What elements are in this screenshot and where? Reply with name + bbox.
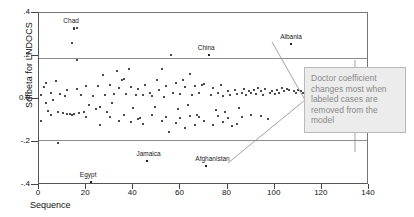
data-point-labeled bbox=[90, 181, 92, 183]
data-point bbox=[229, 94, 231, 96]
data-point-labeled bbox=[205, 165, 207, 167]
y-tick-label: 0.0 bbox=[4, 93, 30, 102]
data-point bbox=[161, 68, 163, 70]
data-point bbox=[43, 86, 45, 88]
x-tick-label: 0 bbox=[26, 188, 50, 197]
x-tick-label: 120 bbox=[309, 188, 333, 197]
point-label-afghanistan: Afghanistan bbox=[195, 155, 229, 162]
data-point bbox=[250, 114, 252, 116]
data-point bbox=[241, 92, 243, 94]
data-point bbox=[66, 89, 68, 91]
data-point bbox=[222, 121, 224, 123]
data-point bbox=[52, 99, 54, 101]
data-point bbox=[99, 106, 101, 108]
data-point bbox=[88, 104, 90, 106]
data-point bbox=[57, 142, 59, 144]
data-point bbox=[156, 79, 158, 81]
data-point bbox=[57, 111, 59, 113]
data-point bbox=[179, 93, 181, 95]
point-label-chad: Chad bbox=[63, 17, 79, 24]
data-point bbox=[109, 116, 111, 118]
data-point bbox=[236, 93, 238, 95]
data-point bbox=[47, 110, 49, 112]
data-point bbox=[161, 120, 163, 122]
data-point bbox=[257, 87, 259, 89]
data-point bbox=[76, 27, 78, 29]
data-point bbox=[203, 120, 205, 122]
data-point bbox=[144, 84, 146, 86]
y-tick bbox=[31, 12, 38, 13]
data-point bbox=[104, 94, 106, 96]
data-point bbox=[109, 84, 111, 86]
x-tick-label: 100 bbox=[262, 188, 286, 197]
data-point bbox=[45, 82, 47, 84]
y-tick bbox=[31, 184, 38, 185]
data-point bbox=[135, 94, 137, 96]
y-tick bbox=[31, 55, 38, 56]
data-point bbox=[271, 90, 273, 92]
data-point bbox=[128, 68, 130, 70]
data-point bbox=[245, 94, 247, 96]
data-point bbox=[210, 94, 212, 96]
data-point bbox=[50, 92, 52, 94]
data-point bbox=[227, 117, 229, 119]
data-point bbox=[158, 89, 160, 91]
data-point bbox=[194, 124, 196, 126]
data-point-labeled bbox=[208, 54, 210, 56]
data-point bbox=[194, 85, 196, 87]
data-point bbox=[137, 118, 139, 120]
data-point bbox=[243, 88, 245, 90]
y-tick-label: .2 bbox=[4, 50, 30, 59]
data-point bbox=[99, 124, 101, 126]
data-point bbox=[142, 123, 144, 125]
x-tick-label: 20 bbox=[73, 188, 97, 197]
data-point bbox=[224, 111, 226, 113]
data-point bbox=[212, 87, 214, 89]
data-point bbox=[123, 114, 125, 116]
data-point bbox=[241, 116, 243, 118]
data-point bbox=[297, 89, 299, 91]
y-tick-label: -.4 bbox=[4, 179, 30, 188]
data-point bbox=[175, 82, 177, 84]
data-point bbox=[264, 88, 266, 90]
data-point bbox=[212, 124, 214, 126]
y-tick-label: .4 bbox=[4, 7, 30, 16]
point-label-egypt: Egypt bbox=[80, 171, 97, 178]
data-point bbox=[168, 131, 170, 133]
data-point bbox=[106, 111, 108, 113]
point-label-china: China bbox=[198, 44, 215, 51]
data-point bbox=[288, 89, 290, 91]
annotation-callout: Doctor coefficient changes most when lab… bbox=[304, 67, 406, 133]
data-point bbox=[253, 89, 255, 91]
data-point bbox=[165, 85, 167, 87]
data-point bbox=[191, 94, 193, 96]
data-point bbox=[154, 106, 156, 108]
data-point bbox=[203, 83, 205, 85]
data-point bbox=[59, 93, 61, 95]
data-point bbox=[45, 102, 47, 104]
data-point bbox=[123, 78, 125, 80]
data-point bbox=[97, 85, 99, 87]
data-point bbox=[71, 42, 73, 44]
data-point bbox=[139, 117, 141, 119]
data-point bbox=[184, 86, 186, 88]
data-point bbox=[125, 93, 127, 95]
data-point bbox=[40, 120, 42, 122]
data-point bbox=[111, 102, 113, 104]
data-point bbox=[95, 108, 97, 110]
data-point bbox=[222, 95, 224, 97]
data-point bbox=[274, 93, 276, 95]
data-point bbox=[189, 73, 191, 75]
data-point bbox=[267, 118, 269, 120]
data-point bbox=[76, 59, 78, 61]
data-point bbox=[76, 88, 78, 90]
y-tick bbox=[31, 141, 38, 142]
data-point bbox=[85, 116, 87, 118]
data-point bbox=[113, 93, 115, 95]
data-point bbox=[215, 109, 217, 111]
point-label-albania: Albania bbox=[280, 33, 302, 40]
data-point bbox=[198, 116, 200, 118]
chart-container: Sdfbeta for LNDOCS Sequence .4.20.0-.2-.… bbox=[0, 0, 414, 217]
data-point bbox=[102, 74, 104, 76]
x-tick-label: 40 bbox=[120, 188, 144, 197]
